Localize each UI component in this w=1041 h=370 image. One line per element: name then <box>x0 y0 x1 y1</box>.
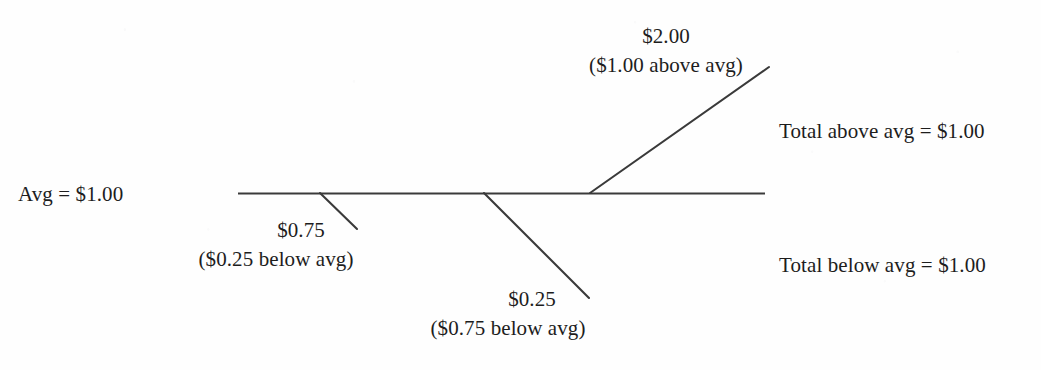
above-value-label: $2.00 <box>642 22 690 50</box>
below-2-value-label: $0.25 <box>508 285 556 313</box>
below-1-value-label: $0.75 <box>277 216 325 244</box>
above-deviation-label: ($1.00 above avg) <box>589 51 743 79</box>
total-below-avg-label: Total below avg = $1.00 <box>779 251 986 279</box>
leader-line-above <box>590 67 769 193</box>
total-above-avg-label: Total above avg = $1.00 <box>779 117 985 145</box>
below-1-deviation-label: ($0.25 below avg) <box>198 245 353 273</box>
deviation-diagram-figure: Avg = $1.00 $2.00 ($1.00 above avg) Tota… <box>0 0 1041 370</box>
average-baseline-label: Avg = $1.00 <box>18 180 123 208</box>
leader-line-below-1 <box>320 193 357 229</box>
below-2-deviation-label: ($0.75 below avg) <box>430 314 585 342</box>
leader-line-below-2 <box>484 193 589 298</box>
